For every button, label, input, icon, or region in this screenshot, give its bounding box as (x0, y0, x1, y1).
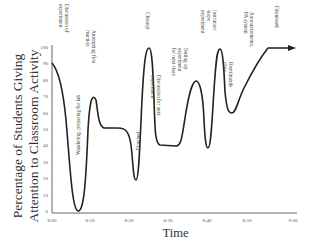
annotation-instructor: Instructor stops experiment (200, 10, 218, 34)
x-tick: 8:20 (125, 218, 134, 223)
y-tick: 80 (43, 78, 49, 83)
annotations: Discussion of experiment Wandering, prep… (58, 4, 280, 155)
y-tick: 70 (43, 94, 49, 99)
x-tick: 8:50 (243, 218, 252, 223)
y-tick: 0 (46, 209, 49, 214)
arrow-head-icon (288, 45, 296, 51)
x-tick: 8:40 (203, 218, 212, 223)
x-tick: 9:00 (289, 218, 298, 223)
y-tick: 50 (43, 127, 49, 132)
y-tick: 30 (43, 160, 49, 165)
x-tick: 8:30 (164, 218, 173, 223)
x-tick: 8:10 (86, 218, 95, 223)
y-tick: 100 (41, 45, 49, 50)
y-tick: 20 (43, 176, 49, 181)
annotation-announcements: Announcements, PA system (243, 12, 255, 48)
attention-curve (52, 48, 290, 211)
annotation-setting-up: Setting up experiment for next class (171, 48, 189, 76)
y-ticks: 0 10 20 30 40 50 60 70 80 90 100 (41, 45, 49, 214)
annotation-discussion: Discussion of experiment (58, 4, 70, 34)
x-tick: 8:00 (48, 218, 57, 223)
y-tick: 10 (43, 193, 49, 198)
x-ticks: 8:00 8:10 8:20 8:30 8:40 8:50 9:00 (48, 218, 298, 223)
annotation-cleanup: Cleanup (145, 12, 151, 30)
attention-line-chart: 0 10 20 30 40 50 60 70 80 90 100 8:00 8:… (0, 0, 311, 249)
y-tick: 60 (43, 111, 49, 116)
annotation-dismissed: Dismissed (274, 6, 280, 28)
annotation-discussion-next: Discussion for next experiment (150, 75, 162, 117)
y-tick: 90 (43, 61, 49, 66)
annotation-wandering: Wandering, preparing for lab (75, 95, 81, 155)
x-axis-label: Time (0, 226, 311, 241)
annotation-attempting: Attempting first reaction (85, 30, 97, 65)
annotation-finished: Finished (135, 132, 141, 150)
y-tick: 40 (43, 143, 49, 148)
